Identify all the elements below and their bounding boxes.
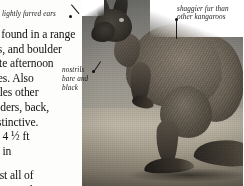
paragraph-gap <box>0 159 96 169</box>
callout-text-shaggy-line1: shaggier fur than <box>177 5 229 13</box>
callout-label-shaggier-fur: shaggier fur than other kangaroos <box>177 5 229 22</box>
callout-text-nostrils-line2: bare and <box>62 75 88 84</box>
callout-text-shaggy-line2: other kangaroos <box>177 13 229 21</box>
callout-text-ears: lightly furred ears <box>2 10 56 18</box>
body-text-line: sert, and <box>0 184 96 186</box>
body-text-line: s found in a range <box>0 28 96 43</box>
body-text-line: ost all of <box>0 169 96 184</box>
callout-leader-line-shaggier-fur <box>176 20 177 39</box>
body-text-line: 5 in <box>0 145 96 160</box>
callout-text-nostrils-line3: black <box>62 84 88 93</box>
photo-cutout-mask-top-left <box>82 0 104 16</box>
callout-dot-ears <box>69 15 72 18</box>
callout-leader-line-ears <box>71 4 79 14</box>
body-text-line: fs, and boulder <box>0 43 96 58</box>
callout-text-nostrils-line1: nostrils <box>62 66 88 75</box>
body-text-line: ilders, back, <box>0 101 96 116</box>
callout-label-ears: lightly furred ears <box>2 10 56 18</box>
body-text-column: s found in a range fs, and boulder ate a… <box>0 28 96 186</box>
callout-label-nostrils: nostrils bare and black <box>62 66 88 93</box>
page-canvas: s found in a range fs, and boulder ate a… <box>0 0 244 186</box>
page-right-margin <box>243 0 244 186</box>
body-text-line: – 4 ½ ft <box>0 130 96 145</box>
body-text-line: istinctive. <box>0 116 96 131</box>
